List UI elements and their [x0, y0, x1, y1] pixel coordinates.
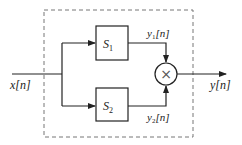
block-diagram: S1 S2 × x[n] y[n] y1[n] y2[n] [0, 0, 242, 145]
y2-line [128, 86, 166, 106]
multiply-icon: × [160, 66, 172, 82]
block-s1 [96, 26, 128, 60]
y1-line [128, 43, 166, 62]
block-s2 [96, 88, 128, 121]
input-label: x[n] [9, 78, 31, 92]
y2-label: y2[n] [146, 111, 169, 125]
output-label: y[n] [209, 78, 231, 92]
y1-label: y1[n] [146, 27, 169, 41]
